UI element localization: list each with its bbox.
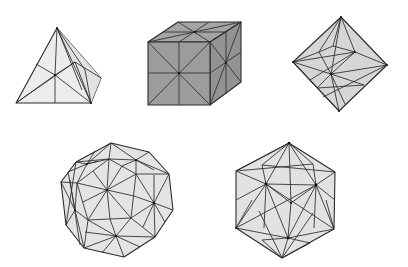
polyhedra-figure bbox=[0, 0, 408, 267]
octahedron bbox=[292, 16, 388, 112]
cube bbox=[148, 22, 241, 105]
icosahedron bbox=[235, 142, 335, 258]
dodecahedron bbox=[61, 143, 173, 257]
tetrahedron bbox=[16, 27, 101, 104]
